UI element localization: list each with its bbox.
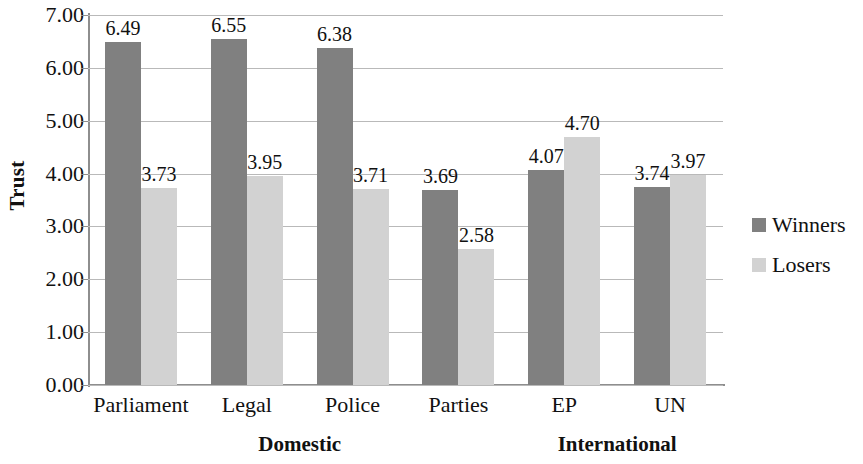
y-axis-tick [81,15,88,16]
bar-winners-police [317,48,353,385]
legend-item-losers[interactable]: Losers [752,252,862,278]
gridline [88,121,723,122]
y-axis-tick-label: 7.00 [12,4,84,26]
y-axis-tick [81,385,88,386]
legend-swatch-icon [752,218,766,232]
chart-legend: WinnersLosers [752,212,862,292]
gridline [88,279,723,280]
bar-chart-figure: Trust 7.006.005.004.003.002.001.000.00 6… [0,0,863,464]
bar-winners-ep [528,170,564,385]
gridline [88,332,723,333]
y-axis-tick-label: 1.00 [12,321,84,343]
gridline [88,15,723,16]
bar-value-label: 6.49 [88,18,158,38]
bar-losers-police [353,189,389,385]
bar-value-label: 6.38 [300,24,370,44]
bar-value-label: 2.58 [441,225,511,245]
y-axis-tick [81,68,88,69]
bar-value-label: 6.55 [194,15,264,35]
bar-losers-parties [458,249,494,385]
bar-losers-ep [564,137,600,385]
x-axis-label-un: UN [590,392,750,418]
y-axis-tick-label: 3.00 [12,215,84,237]
bar-losers-un [670,175,706,385]
bar-losers-parliament [141,188,177,385]
gridline [88,226,723,227]
y-axis-tick [81,121,88,122]
bar-value-label: 3.73 [124,164,194,184]
y-axis-tick [81,279,88,280]
bar-value-label: 3.95 [230,152,300,172]
bar-value-label: 4.70 [547,113,617,133]
legend-item-winners[interactable]: Winners [752,212,862,238]
bar-value-label: 3.69 [405,166,475,186]
y-axis-tick-label: 4.00 [12,163,84,185]
bar-winners-parliament [105,42,141,385]
gridline [88,68,723,69]
gridline [88,385,723,386]
y-axis-tick [81,174,88,175]
y-axis-tick [81,332,88,333]
bar-value-label: 3.71 [336,165,406,185]
bar-winners-un [634,187,670,385]
group-label-international: International [497,432,737,457]
group-label-domestic: Domestic [180,432,420,457]
bar-winners-parties [422,190,458,385]
bar-value-label: 3.97 [653,151,723,171]
y-axis-tick [81,226,88,227]
y-axis-tick-label: 2.00 [12,268,84,290]
y-axis-tick-label: 5.00 [12,110,84,132]
y-axis-tick-label: 6.00 [12,57,84,79]
bar-losers-legal [247,176,283,385]
bar-winners-legal [211,39,247,385]
legend-label: Losers [772,252,831,278]
plot-area: 6.493.736.553.956.383.713.692.584.074.70… [88,15,723,385]
legend-swatch-icon [752,258,766,272]
legend-label: Winners [772,212,846,238]
